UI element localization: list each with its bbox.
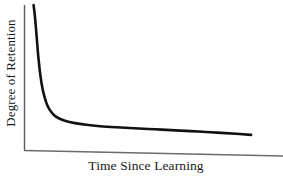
forgetting-curve-figure: Degree of Retention Time Since Learning <box>0 0 283 177</box>
x-axis-title: Time Since Learning <box>24 157 268 175</box>
retention-curve <box>34 5 252 135</box>
chart-canvas <box>0 0 283 177</box>
y-axis-title: Degree of Retention <box>2 0 20 148</box>
x-axis-line <box>24 151 283 157</box>
